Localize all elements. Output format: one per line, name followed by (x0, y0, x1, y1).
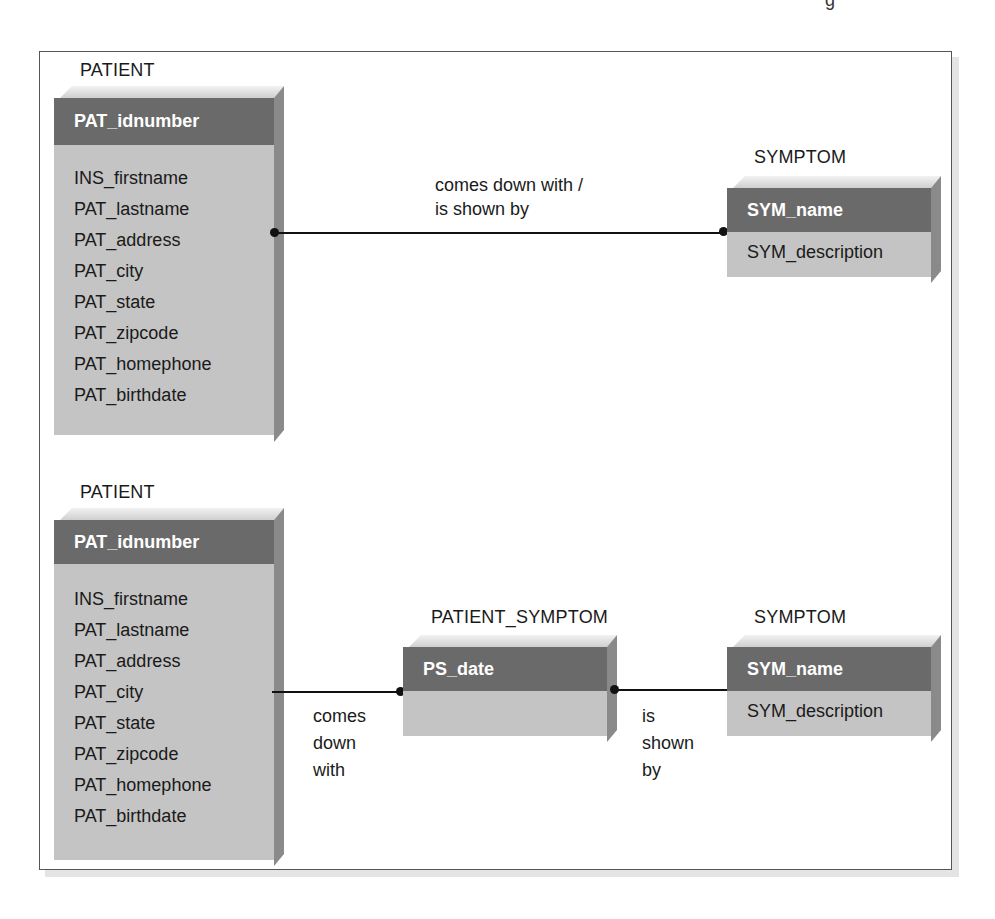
attribute: PAT_address (74, 225, 274, 256)
entity-attributes (403, 691, 607, 736)
entity-attributes: SYM_description (727, 232, 931, 277)
attribute: SYM_description (747, 232, 931, 272)
entity-attributes: SYM_description (727, 691, 931, 736)
attribute: PAT_state (74, 708, 274, 739)
page-fragment-glyph: g (825, 0, 835, 11)
entity-patient-symptom[interactable]: PS_date (403, 635, 617, 742)
relationship-label-left: comes down with (313, 703, 366, 784)
entity-top-face (733, 176, 941, 188)
entity-patient-bottom[interactable]: PAT_idnumber INS_firstname PAT_lastname … (54, 508, 284, 866)
entity-title-patient-top: PATIENT (80, 60, 155, 81)
relationship-label-line: comes down with / (435, 173, 583, 197)
entity-attributes: INS_firstname PAT_lastname PAT_address P… (54, 564, 274, 860)
entity-top-face (409, 635, 617, 647)
entity-attributes: INS_firstname PAT_lastname PAT_address P… (54, 145, 274, 435)
attribute: PAT_city (74, 256, 274, 287)
relationship-label-line: shown (642, 730, 694, 757)
entity-title-patient-symptom: PATIENT_SYMPTOM (431, 607, 608, 628)
relationship-line-left[interactable] (272, 691, 402, 693)
relationship-label: comes down with / is shown by (435, 173, 583, 221)
attribute: PAT_address (74, 646, 274, 677)
entity-top-face (60, 86, 284, 98)
primary-key-field: PAT_idnumber (54, 520, 274, 564)
relationship-label-line: is shown by (435, 197, 583, 221)
attribute: INS_firstname (74, 584, 274, 615)
entity-title-symptom-top: SYMPTOM (754, 147, 846, 168)
relationship-label-line: comes (313, 703, 366, 730)
attribute: PAT_lastname (74, 194, 274, 225)
entity-top-face (60, 508, 284, 520)
entity-side-face (931, 635, 941, 742)
attribute: PAT_lastname (74, 615, 274, 646)
entity-patient-top[interactable]: PAT_idnumber INS_firstname PAT_lastname … (54, 86, 284, 442)
attribute: PAT_city (74, 677, 274, 708)
attribute: INS_firstname (74, 163, 274, 194)
attribute: PAT_homephone (74, 349, 274, 380)
primary-key-field: PAT_idnumber (54, 98, 274, 145)
entity-title-patient-bottom: PATIENT (80, 482, 155, 503)
entity-side-face (274, 508, 284, 866)
entity-side-face (931, 176, 941, 283)
relationship-line-right[interactable] (615, 689, 728, 691)
connector-dot (610, 685, 619, 694)
relationship-label-line: by (642, 757, 694, 784)
relationship-label-right: is shown by (642, 703, 694, 784)
attribute: PAT_state (74, 287, 274, 318)
connector-dot (270, 228, 279, 237)
primary-key-field: PS_date (403, 647, 607, 691)
entity-side-face (274, 86, 284, 442)
primary-key-field: SYM_name (727, 188, 931, 232)
entity-symptom-top[interactable]: SYM_name SYM_description (727, 176, 941, 283)
entity-symptom-bottom[interactable]: SYM_name SYM_description (727, 635, 941, 742)
attribute: PAT_birthdate (74, 380, 274, 411)
entity-title-symptom-bottom: SYMPTOM (754, 607, 846, 628)
relationship-label-line: down (313, 730, 366, 757)
attribute: PAT_zipcode (74, 739, 274, 770)
attribute: SYM_description (747, 691, 931, 731)
attribute: PAT_homephone (74, 770, 274, 801)
relationship-label-line: with (313, 757, 366, 784)
entity-top-face (733, 635, 941, 647)
relationship-line[interactable] (275, 232, 724, 234)
primary-key-field: SYM_name (727, 647, 931, 691)
attribute: PAT_birthdate (74, 801, 274, 832)
attribute: PAT_zipcode (74, 318, 274, 349)
relationship-label-line: is (642, 703, 694, 730)
